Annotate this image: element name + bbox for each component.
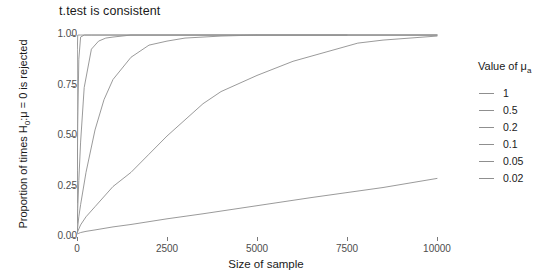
x-axis-title: Size of sample — [77, 258, 455, 270]
legend-item-label: 0.1 — [503, 138, 518, 150]
y-tick-mark — [71, 86, 75, 87]
x-tick-label: 0 — [74, 243, 80, 254]
legend-item-label: 0.2 — [503, 121, 518, 133]
x-tick-label: 5000 — [246, 243, 268, 254]
x-tick-mark — [257, 237, 258, 241]
legend-item-label: 0.05 — [503, 155, 523, 167]
plot-panel — [77, 31, 455, 237]
legend-items: 10.50.20.10.050.02 — [478, 84, 552, 186]
legend-line-icon — [478, 173, 495, 183]
legend-item-1[interactable]: 1 — [478, 84, 552, 101]
legend: Value of μa 10.50.20.10.050.02 — [478, 60, 552, 186]
y-tick-mark — [71, 187, 75, 188]
legend-title-subscript: a — [527, 66, 531, 75]
y-axis-tick-group: 0.000.250.500.751.00 — [33, 31, 77, 237]
y-axis-title: Proportion of times H0:μ = 0 is rejected — [14, 29, 32, 239]
legend-item-0.5[interactable]: 0.5 — [478, 101, 552, 118]
legend-item-0.2[interactable]: 0.2 — [478, 118, 552, 135]
y-tick-mark — [71, 35, 75, 36]
x-tick-label: 7500 — [336, 243, 358, 254]
plot-lines-svg — [77, 31, 455, 237]
legend-item-label: 0.5 — [503, 104, 518, 116]
legend-line-icon — [478, 156, 495, 166]
x-tick-mark — [77, 237, 78, 241]
y-tick-mark — [71, 136, 75, 137]
series-line-0.5 — [77, 35, 437, 223]
series-line-1 — [77, 35, 437, 203]
legend-line-icon — [478, 88, 495, 98]
legend-item-0.1[interactable]: 0.1 — [478, 135, 552, 152]
y-tick-label: 0.50 — [41, 129, 77, 140]
legend-line-icon — [478, 122, 495, 132]
series-line-0.2 — [77, 35, 347, 231]
legend-title: Value of μa — [478, 60, 552, 75]
x-tick-mark — [437, 237, 438, 241]
legend-line-icon — [478, 105, 495, 115]
y-tick-mark — [71, 237, 75, 238]
chart-title: t.test is consistent — [59, 4, 160, 18]
x-tick-label: 2500 — [156, 243, 178, 254]
y-axis-title-prefix: Proportion of times H — [17, 125, 29, 228]
x-tick-mark — [347, 237, 348, 241]
y-tick-label: 0.00 — [41, 230, 77, 241]
legend-item-label: 0.02 — [503, 172, 523, 184]
series-line-0.02 — [77, 178, 437, 234]
y-axis-title-suffix: :μ = 0 is rejected — [17, 39, 29, 120]
legend-item-label: 1 — [503, 87, 509, 99]
y-tick-label: 0.25 — [41, 180, 77, 191]
legend-item-0.05[interactable]: 0.05 — [478, 152, 552, 169]
x-tick-mark — [167, 237, 168, 241]
series-line-0.1 — [77, 35, 437, 233]
legend-title-text: Value of μ — [478, 60, 527, 72]
chart-container: t.test is consistent Proportion of times… — [0, 0, 554, 280]
legend-line-icon — [478, 139, 495, 149]
series-line-0.05 — [77, 36, 437, 233]
x-axis-tick-group: 025005000750010000 — [77, 237, 455, 259]
y-tick-label: 1.00 — [41, 28, 77, 39]
legend-item-0.02[interactable]: 0.02 — [478, 169, 552, 186]
y-tick-label: 0.75 — [41, 79, 77, 90]
x-tick-label: 10000 — [423, 243, 451, 254]
y-axis-title-subscript: 0 — [23, 121, 32, 125]
